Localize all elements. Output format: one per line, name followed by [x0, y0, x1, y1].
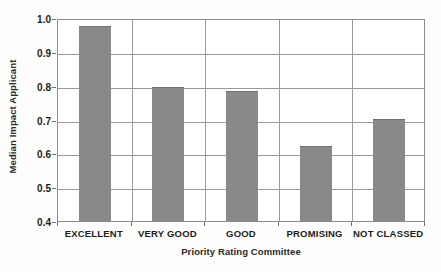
- y-axis-tick-label: 0.7: [37, 115, 51, 126]
- bar[interactable]: [79, 26, 111, 221]
- y-axis-tick-mark: [52, 188, 56, 189]
- bars-layer: [58, 20, 424, 221]
- y-axis-tick-label: 0.6: [37, 149, 51, 160]
- x-axis-tick-mark: [204, 222, 205, 226]
- x-axis-category-label: EXCELLENT: [65, 228, 123, 239]
- y-axis-tick-label: 0.4: [37, 217, 51, 228]
- y-axis-tick-mark: [52, 53, 56, 54]
- y-axis-tick-mark: [52, 154, 56, 155]
- x-axis-category-label: GOOD: [226, 228, 256, 239]
- x-axis-title: Priority Rating Committee: [57, 246, 425, 257]
- x-axis-category-labels: EXCELLENTVERY GOODGOODPROMISINGNOT CLASS…: [57, 228, 425, 244]
- x-axis-tick-mark: [278, 222, 279, 226]
- x-axis-category-label: NOT CLASSED: [353, 228, 423, 239]
- x-axis-tick-mark: [57, 222, 58, 226]
- bar[interactable]: [373, 119, 405, 221]
- x-axis-tick-mark: [131, 222, 132, 226]
- y-axis-tick-label: 0.9: [37, 47, 51, 58]
- bar-chart: Median Impact Applicant 0.40.50.60.70.80…: [0, 0, 441, 272]
- plot-area: [57, 19, 425, 222]
- bar[interactable]: [152, 87, 184, 221]
- y-axis-tick-mark: [52, 121, 56, 122]
- y-axis-tick-labels: 0.40.50.60.70.80.91.0: [24, 0, 56, 240]
- y-axis-tick-label: 1.0: [37, 14, 51, 25]
- x-axis-category-label: PROMISING: [287, 228, 343, 239]
- x-axis-tick-mark: [424, 222, 425, 226]
- y-axis-tick-mark: [52, 19, 56, 20]
- x-axis-category-label: VERY GOOD: [138, 228, 197, 239]
- y-axis-tick-mark: [52, 87, 56, 88]
- y-axis-title-text: Median Impact Applicant: [8, 59, 19, 173]
- y-axis-tick-label: 0.5: [37, 183, 51, 194]
- y-axis-title: Median Impact Applicant: [0, 0, 26, 232]
- y-axis-tick-label: 0.8: [37, 81, 51, 92]
- bar[interactable]: [300, 146, 332, 221]
- x-axis-tick-marks: [57, 222, 425, 227]
- y-axis-tick-mark: [52, 222, 56, 223]
- bar[interactable]: [226, 91, 258, 221]
- x-axis-tick-mark: [351, 222, 352, 226]
